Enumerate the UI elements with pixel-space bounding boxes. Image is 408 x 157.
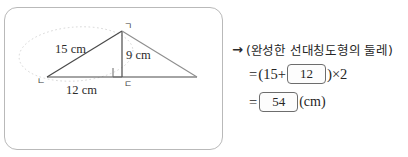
label-height-9cm: 9 cm bbox=[126, 48, 151, 62]
eq1-plus-sign: + bbox=[278, 66, 286, 83]
equation-line-1: = ( 15 + 12 ) × 2 bbox=[249, 60, 404, 88]
eq1-times-sign: × bbox=[332, 66, 340, 83]
figure-panel: ㄱ ㄴ ㄷ 15 cm 9 cm 12 cm bbox=[4, 7, 223, 150]
label-side-15cm: 15 cm bbox=[55, 42, 86, 56]
vertex-label-bottom-left: ㄴ bbox=[37, 76, 45, 86]
equation-line-2: = 54 (cm) bbox=[249, 88, 404, 116]
eq1-multiplier: 2 bbox=[340, 66, 347, 83]
arrow-right-icon: → bbox=[232, 43, 243, 56]
vertex-label-top: ㄱ bbox=[124, 21, 132, 31]
eq1-equals-sign: = bbox=[249, 66, 257, 83]
eq2-answer-box[interactable]: 54 bbox=[259, 92, 298, 112]
statement-line: → (완성한 선대칭도형의 둘레) bbox=[232, 38, 404, 60]
right-angle-mark bbox=[113, 68, 122, 77]
statement-text: (완성한 선대칭도형의 둘레) bbox=[246, 40, 393, 59]
triangle-figure: ㄱ ㄴ ㄷ 15 cm 9 cm 12 cm bbox=[5, 8, 224, 151]
eq2-unit-label: (cm) bbox=[299, 94, 325, 110]
vertex-label-bottom-mid: ㄷ bbox=[124, 79, 132, 89]
eq1-first-term: 15 bbox=[263, 66, 278, 83]
label-base-12cm: 12 cm bbox=[66, 83, 97, 97]
solution-column: → (완성한 선대칭도형의 둘레) = ( 15 + 12 ) × 2 = 54… bbox=[232, 38, 404, 116]
eq1-answer-box[interactable]: 12 bbox=[287, 64, 326, 84]
eq2-equals-sign: = bbox=[249, 94, 257, 111]
